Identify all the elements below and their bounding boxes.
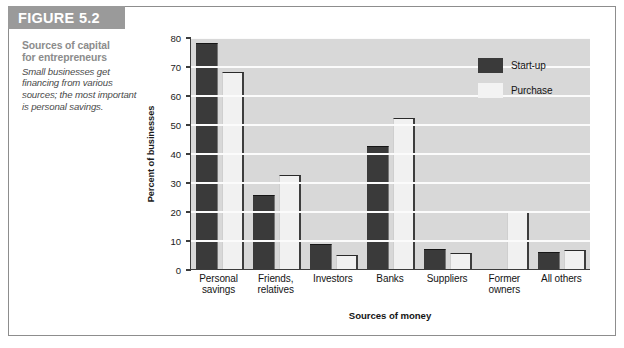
y-axis-tick-label: 40 [171,149,181,160]
y-axis-tick-label: 50 [171,120,181,131]
x-axis-category-line: relatives [241,284,310,295]
y-axis-tick-label: 70 [171,62,181,73]
gridline [191,211,590,213]
figure-root: FIGURE 5.2 Sources of capital for entrep… [0,0,624,348]
y-axis-tick-label: 10 [171,236,181,247]
bar-purchase [336,255,358,270]
figure-number-label: FIGURE 5.2 [8,10,100,26]
legend-label-purchase: Purchase [511,85,552,96]
legend-item-startup: Start-up [478,58,596,73]
chart-legend: Start-up Purchase [478,58,596,108]
x-axis-category-label: All others [527,273,596,284]
figure-caption: Sources of capital for entrepreneurs Sma… [22,40,140,112]
bar-startup [367,146,389,269]
gridline [191,38,590,39]
y-axis-tick [186,95,191,96]
y-axis-title: Percent of businesses [144,38,158,270]
y-axis-tick-label: 30 [171,178,181,189]
y-axis-tick [186,37,191,38]
x-axis-category-labels: PersonalsavingsFriends,relativesInvestor… [190,273,590,307]
legend-item-purchase: Purchase [478,83,596,98]
bar-startup [196,43,218,269]
y-axis-tick-label: 0 [176,265,181,276]
bar-startup [253,195,275,269]
y-axis-tick-label: 80 [171,33,181,44]
bar-purchase [450,253,472,269]
legend-swatch-purchase [478,83,503,98]
y-axis-tick-labels: 01020304050607080 [158,38,184,270]
y-axis-tick [186,182,191,183]
gridline [191,240,590,242]
y-axis-title-text: Percent of businesses [146,106,156,203]
bar-purchase [279,175,301,269]
x-axis-category-line: All others [527,273,596,284]
legend-label-startup: Start-up [511,60,546,71]
x-axis-title: Sources of money [190,310,590,321]
caption-title: Sources of capital for entrepreneurs [22,40,140,65]
y-axis-tick [186,211,191,212]
bar-chart: Percent of businesses 01020304050607080 … [150,38,608,334]
y-axis-tick [186,153,191,154]
caption-title-line-2: for entrepreneurs [22,52,140,64]
x-axis-category-line: owners [470,284,539,295]
bar-purchase [564,250,586,269]
y-axis-tick [186,269,191,270]
y-axis-tick [186,240,191,241]
caption-description: Small businesses get financing from vari… [22,66,140,112]
y-axis-tick-label: 60 [171,91,181,102]
bar-startup [424,249,446,269]
y-axis-tick [186,124,191,125]
gridline [191,153,590,155]
bar-purchase [393,118,415,269]
y-axis-tick-label: 20 [171,207,181,218]
gridline [191,124,590,126]
gridline [191,182,590,184]
legend-swatch-startup [478,58,503,73]
caption-title-line-1: Sources of capital [22,40,140,52]
y-axis-tick [186,66,191,67]
figure-number-banner: FIGURE 5.2 [8,6,125,29]
bar-startup [538,252,560,269]
bar-startup [310,244,332,269]
